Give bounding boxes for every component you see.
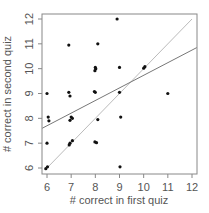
y-tick-label: 11 [23,38,35,49]
data-point [67,91,70,94]
data-point [47,119,50,122]
data-point [96,118,99,121]
y-tick-label: 10 [23,63,35,75]
data-point [118,66,121,69]
x-tick-label: 7 [68,181,74,193]
x-tick-label: 9 [116,181,122,193]
data-point [93,90,96,93]
y-tick-label: 12 [23,13,35,25]
x-tick-label: 8 [92,181,98,193]
x-tick-label: 6 [44,181,50,193]
data-point [68,94,71,97]
data-point [47,116,50,119]
data-point [67,44,70,47]
y-tick-label: 7 [23,140,35,146]
data-point [68,119,71,122]
y-tick-label: 6 [23,165,35,171]
data-point [45,92,48,95]
x-tick-label: 12 [186,181,198,193]
data-point [94,67,97,70]
x-axis: 6789101112 [44,174,198,193]
x-tick-label: 11 [162,181,173,193]
data-point [46,165,49,168]
y-tick-label: 8 [23,115,35,121]
data-points [44,17,169,170]
data-point [96,42,99,45]
data-point [118,91,121,94]
data-point [143,65,146,68]
data-point [118,165,121,168]
x-axis-label: # correct in first quiz [70,194,168,206]
data-point [116,17,119,20]
y-axis-label: # correct in second quiz [1,36,13,152]
scatter-chart: 6789101112 6789101112 # correct in first… [0,0,209,213]
y-tick-label: 9 [23,90,35,96]
data-point [119,116,122,119]
data-point [68,143,71,146]
x-tick-label: 10 [138,181,150,193]
data-point [71,139,74,142]
data-point [95,141,98,144]
data-point [45,142,48,145]
y-axis: 6789101112 [23,13,42,171]
data-point [166,92,169,95]
